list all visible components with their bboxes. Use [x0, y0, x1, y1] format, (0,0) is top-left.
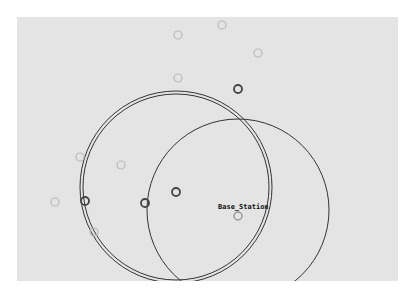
sensor-node-1[interactable] — [174, 31, 182, 39]
sensor-node-0[interactable] — [218, 21, 226, 29]
sensor-node-4[interactable] — [234, 85, 242, 93]
sensor-node-10[interactable] — [141, 199, 149, 207]
base-station-node[interactable] — [234, 212, 242, 220]
network-diagram: Base_Station — [0, 0, 412, 300]
base-station-label: Base_Station — [218, 203, 269, 211]
sensor-node-7[interactable] — [172, 188, 180, 196]
sensor-node-3[interactable] — [174, 74, 182, 82]
sensor-node-6[interactable] — [117, 161, 125, 169]
double-range-circle-inner — [83, 94, 269, 280]
sensor-node-2[interactable] — [254, 49, 262, 57]
sensor-node-8[interactable] — [51, 198, 59, 206]
sensor-node-5[interactable] — [76, 153, 84, 161]
double-range-circle-outer — [80, 91, 272, 283]
